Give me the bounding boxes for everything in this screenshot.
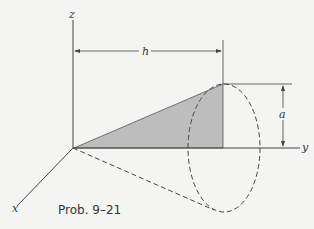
a-label: a	[279, 108, 286, 121]
a-arrow-bottom	[281, 141, 285, 147]
z-axis-label: z	[68, 8, 75, 21]
figure-caption: Prob. 9–21	[58, 203, 121, 217]
cone-figure: h a z y x Prob. 9–21	[0, 0, 314, 229]
h-arrow-right	[216, 49, 222, 53]
shaded-triangle	[74, 84, 223, 148]
x-axis-label: x	[12, 202, 19, 215]
a-arrow-top	[281, 85, 285, 91]
h-label: h	[142, 45, 149, 58]
y-axis-label: y	[301, 141, 309, 154]
diagram-canvas: h a z y x Prob. 9–21	[0, 0, 314, 229]
h-arrow-left	[74, 49, 80, 53]
x-axis	[17, 148, 73, 206]
